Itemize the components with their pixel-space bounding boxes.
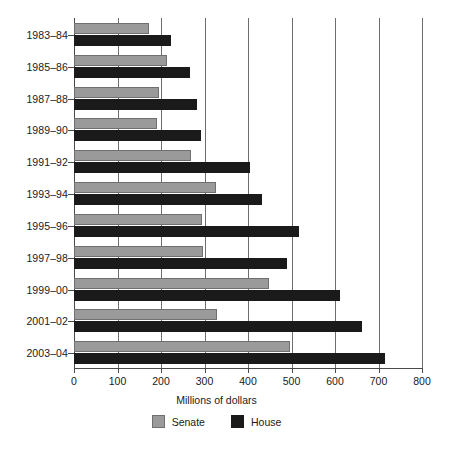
bar-house [74, 290, 340, 301]
y-tick [68, 258, 74, 259]
chart-legend: SenateHouse [0, 415, 465, 428]
x-tick-label-700: 700 [359, 375, 399, 387]
bar-group [74, 150, 422, 174]
bar-group [74, 278, 422, 302]
legend-label: Senate [172, 416, 205, 428]
x-tick-200 [161, 368, 162, 373]
y-category-label: 1995–96 [26, 220, 68, 232]
bar-group [74, 182, 422, 206]
bar-house [74, 321, 362, 332]
x-tick-label-400: 400 [228, 375, 268, 387]
bar-chart: 1983–841985–861987–881989–901991–921993–… [0, 0, 465, 460]
y-tick [68, 35, 74, 36]
x-tick-400 [248, 368, 249, 373]
y-tick [68, 290, 74, 291]
y-category-label: 1987–88 [26, 93, 68, 105]
x-tick-label-600: 600 [315, 375, 355, 387]
bar-house [74, 35, 171, 46]
legend-item-senate: Senate [152, 415, 205, 428]
y-category-label: 1993–94 [26, 188, 68, 200]
bar-house [74, 226, 299, 237]
y-category-label: 1983–84 [26, 29, 68, 41]
y-category-label: 1999–00 [26, 284, 68, 296]
x-tick-label-0: 0 [54, 375, 94, 387]
x-tick-700 [379, 368, 380, 373]
x-tick-label-500: 500 [272, 375, 312, 387]
y-category-label: 2003–04 [26, 347, 68, 359]
legend-swatch-house [231, 415, 244, 428]
x-tick-800 [422, 368, 423, 373]
x-axis-line [74, 368, 422, 369]
y-tick [68, 226, 74, 227]
legend-item-house: House [231, 415, 281, 428]
y-tick [68, 67, 74, 68]
bar-senate [74, 55, 167, 66]
x-tick-600 [335, 368, 336, 373]
bar-house [74, 258, 287, 269]
x-tick-500 [292, 368, 293, 373]
y-category-label: 1997–98 [26, 252, 68, 264]
bar-house [74, 67, 190, 78]
bar-house [74, 130, 201, 141]
bar-senate [74, 246, 203, 257]
y-category-label: 1991–92 [26, 156, 68, 168]
x-tick-label-800: 800 [402, 375, 442, 387]
bar-senate [74, 182, 216, 193]
bar-house [74, 353, 385, 364]
y-tick [68, 321, 74, 322]
bar-group [74, 341, 422, 365]
x-axis-title-text: Millions of dollars [176, 394, 257, 406]
y-category-label: 1985–86 [26, 61, 68, 73]
bar-group [74, 214, 422, 238]
bar-house [74, 162, 250, 173]
x-axis-title: Millions of dollars [0, 394, 465, 406]
y-axis-labels: 1983–841985–861987–881989–901991–921993–… [0, 18, 68, 368]
bar-senate [74, 341, 290, 352]
y-category-label: 1989–90 [26, 124, 68, 136]
y-tick [68, 194, 74, 195]
x-tick-label-100: 100 [98, 375, 138, 387]
y-tick [68, 130, 74, 131]
bar-group [74, 23, 422, 47]
x-tick-300 [205, 368, 206, 373]
bar-senate [74, 150, 191, 161]
y-tick [68, 99, 74, 100]
bar-senate [74, 87, 159, 98]
bar-senate [74, 309, 217, 320]
bar-group [74, 118, 422, 142]
legend-swatch-senate [152, 415, 165, 428]
x-tick-100 [118, 368, 119, 373]
x-tick-0 [74, 368, 75, 373]
bar-group [74, 309, 422, 333]
bar-group [74, 55, 422, 79]
bar-senate [74, 214, 202, 225]
x-axis-tick-labels: 0100200300400500600700800 [0, 375, 465, 391]
bar-senate [74, 23, 149, 34]
legend-label: House [251, 416, 281, 428]
bar-house [74, 99, 197, 110]
bar-group [74, 246, 422, 270]
bar-group [74, 87, 422, 111]
y-category-label: 2001–02 [26, 315, 68, 327]
bar-senate [74, 278, 269, 289]
gridline-800 [422, 18, 423, 368]
y-tick [68, 353, 74, 354]
plot-area [74, 18, 422, 368]
x-tick-label-300: 300 [185, 375, 225, 387]
y-tick [68, 162, 74, 163]
x-tick-label-200: 200 [141, 375, 181, 387]
bar-house [74, 194, 262, 205]
bar-senate [74, 118, 157, 129]
